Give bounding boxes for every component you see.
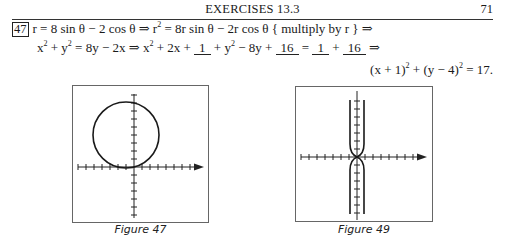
figure-47-caption: Figure 47 [72,223,209,236]
equation-text: (x + 1) [370,62,406,77]
solution-line-2: x2 + y2 = 8y − 2x ⇒ x2 + 2x + 1 + y2 − 8… [37,40,380,56]
equation-text: = 17. [463,62,493,77]
equation-text: = 8y − 2x ⇒ x [72,40,150,55]
pinched-curves-graph [295,86,433,222]
completed-square-blank: 16 [343,42,366,55]
header-title: EXERCISES 13.3 [0,2,505,17]
solution-line-3: (x + 1)2 + (y − 4)2 = 17. [370,62,493,78]
header-rule [12,19,493,20]
page-number: 71 [481,2,494,17]
equation-text: ⇒ [366,40,380,55]
equation-text: + y [48,40,68,55]
x-axis-arrow-icon [417,154,427,161]
equation-text: − 8y + [235,40,276,55]
equation-text: + 2x + [153,40,194,55]
equation-text: + y [211,40,231,55]
completed-square-blank: 1 [194,42,211,55]
figure-49-caption: Figure 49 [295,223,433,236]
exercise-number: 47 [12,22,29,37]
solution-line-1: 47r = 8 sin θ − 2 cos θ ⇒ r2 = 8r sin θ … [12,21,373,37]
completed-square-blank: 1 [312,42,329,55]
equation-text: = 8r sin θ − 2r cos θ { multiply by r } … [161,21,373,36]
completed-square-blank: 16 [276,42,299,55]
equation-text: + [329,40,343,55]
equation-text: r = 8 sin θ − 2 cos θ ⇒ r [33,21,158,36]
circle-curve [93,102,159,168]
x-axis-arrow-icon [194,164,204,171]
figure-49 [295,86,433,222]
circle-graph [72,85,209,223]
equation-text: + (y − 4) [410,62,459,77]
figure-47 [72,85,209,223]
equation-text: = [299,40,313,55]
